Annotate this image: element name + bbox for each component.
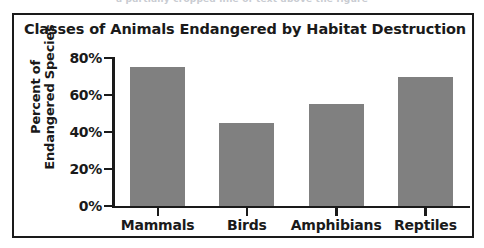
x-axis-category-label: Birds [227, 217, 267, 233]
x-axis-category-label: Reptiles [394, 217, 457, 233]
bar [219, 123, 274, 206]
bars-layer [14, 15, 476, 206]
cropped-text-remnant: a partially cropped line of text above t… [0, 0, 484, 6]
x-axis-tick [424, 207, 427, 216]
x-axis-tick [157, 207, 160, 216]
x-axis-line [112, 206, 470, 209]
x-axis-category-label: Mammals [121, 217, 195, 233]
bar [130, 67, 185, 206]
figure-frame: Classes of Animals Endangered by Habitat… [12, 13, 474, 238]
plot-area: Percent of Endangered Species 0%20%40%60… [14, 15, 476, 240]
bar [309, 104, 364, 206]
x-axis-tick [246, 207, 249, 216]
x-axis-tick [335, 207, 338, 216]
x-axis-category-label: Amphibians [291, 217, 382, 233]
bar [398, 77, 453, 207]
